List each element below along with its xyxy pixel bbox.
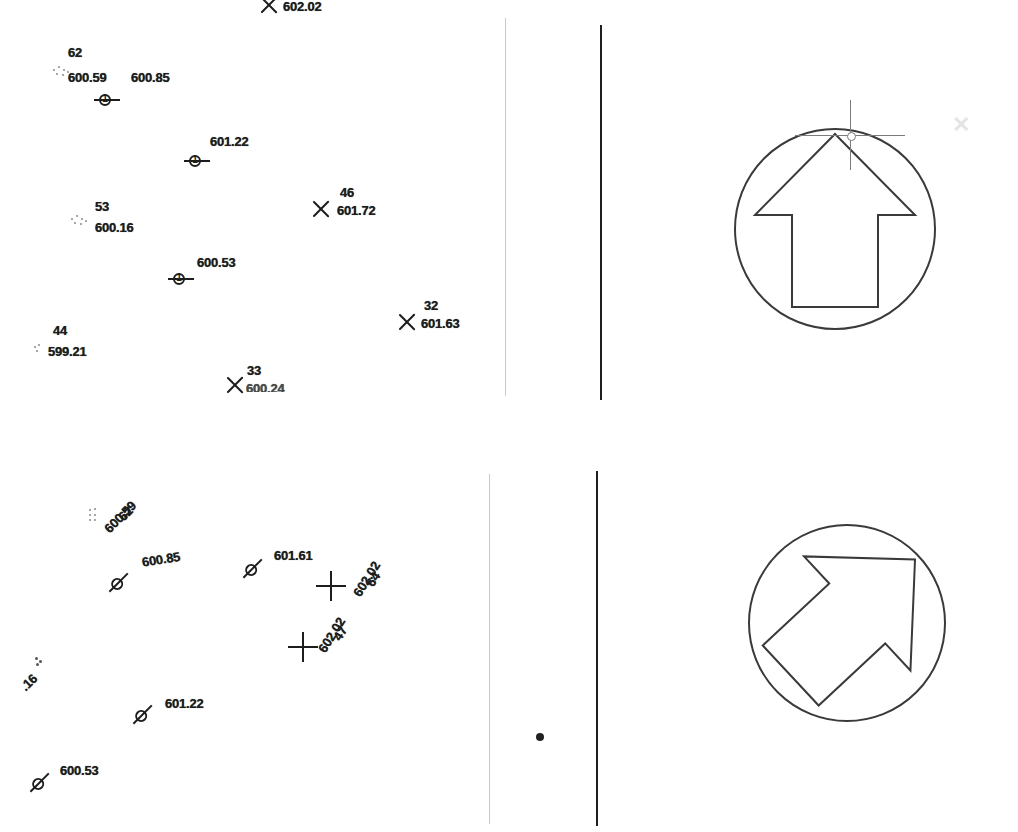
point-id-label: 53 [95, 200, 109, 213]
dots-marker [70, 215, 92, 231]
point-elev-label: 601.22 [165, 697, 204, 710]
crosshair-cursor [795, 100, 905, 170]
point-elev-label: 600.16 [95, 221, 134, 234]
point-elev-label: 602.02 [283, 0, 322, 13]
point-elev-label: 600.53 [197, 256, 236, 269]
north-arrow-rotated-icon [740, 516, 954, 730]
point-elev-label: 600.24 [246, 382, 285, 392]
control-point-marker [239, 555, 269, 585]
point-elev-label: 600.85 [141, 550, 181, 569]
point-elev-label: 599.21 [48, 345, 87, 358]
center-dot [536, 733, 544, 741]
point-elev-label: 601.72 [337, 204, 376, 217]
point-elev-label: 601.61 [274, 549, 313, 562]
point-id-label: 33 [247, 364, 261, 377]
point-id-label: 44 [53, 324, 67, 337]
point-elev-label: 601.22 [210, 135, 249, 148]
lower-light-rule [489, 474, 490, 824]
point-elev-label: 600.59 [68, 71, 107, 84]
point-elev-label: 600.53 [60, 764, 99, 777]
point-id-label: 62 [68, 46, 82, 59]
scanned-drawing-page: g p g 602.02 62 600.59 600.85 1 601.22 1 [0, 0, 1018, 832]
point-elev-label: .16 [18, 672, 40, 694]
upper-dark-rule [600, 25, 602, 400]
dots-marker [34, 656, 56, 672]
control-point-glyph: 1 [168, 272, 190, 284]
point-elev-label: 600.85 [131, 71, 170, 84]
control-point-marker [129, 701, 159, 731]
plus-marker [288, 632, 318, 662]
lower-panel: 62 600.59 600.85 601.61 64 602.02 47 602… [0, 416, 1018, 832]
point-id-label: 32 [424, 299, 438, 312]
x-marker [224, 374, 246, 396]
x-marker [396, 311, 418, 333]
lower-dark-rule [596, 471, 598, 826]
scan-artifact-ghost: ✕ [952, 112, 970, 138]
upper-light-rule [505, 18, 506, 396]
upper-panel: 602.02 62 600.59 600.85 1 601.22 1 46 60… [0, 0, 1018, 416]
north-arrow-rotated[interactable] [740, 516, 954, 730]
control-point-marker: 1 [184, 155, 210, 171]
control-point-marker [26, 769, 56, 799]
point-elev-label: 601.63 [421, 317, 460, 330]
plus-marker [316, 571, 346, 601]
x-marker [310, 198, 332, 220]
control-point-marker [105, 569, 135, 599]
control-point-glyph: 1 [94, 93, 116, 105]
control-point-glyph: 1 [184, 154, 206, 166]
control-point-marker: 1 [168, 273, 194, 289]
control-point-marker: 1 [94, 94, 120, 110]
x-marker [258, 0, 280, 16]
point-id-label: 46 [340, 186, 354, 199]
